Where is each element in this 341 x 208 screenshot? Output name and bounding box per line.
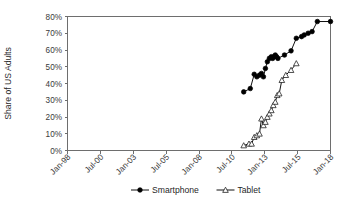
data-point [282,53,287,58]
legend-label: Tablet [238,185,262,195]
plot-frame [68,17,331,151]
x-axis-tick-label: Jul-10 [215,152,237,174]
series-line [244,22,331,92]
x-axis-tick-label: Jan-08 [180,152,204,176]
x-axis-tick-label: Jan-03 [114,152,138,176]
y-axis-tick-label: 10% [46,130,62,139]
y-axis-tick-label: 70% [46,29,62,38]
series-smartphone [241,19,332,94]
y-axis-tick-label: 80% [46,13,62,22]
x-axis-tick-label: Jul-05 [149,152,171,174]
legend-label: Smartphone [152,185,199,195]
x-axis-tick-label: Jul-15 [280,152,302,174]
y-axis-tick-label: 50% [46,63,62,72]
data-point [259,116,265,121]
data-point [263,66,268,71]
data-point [294,36,299,41]
x-axis-tick-label: Jul-00 [83,152,105,174]
series-tablet [241,61,299,148]
legend-item-tablet[interactable]: Tablet [217,185,262,195]
data-point [248,86,253,91]
data-point [294,61,300,66]
y-axis-tick-label: 30% [46,96,62,105]
x-axis-tick-label: Jan-98 [48,152,72,176]
x-axis-tick-label: Jan-18 [311,152,335,176]
data-point [289,49,294,54]
y-axis-tick-label: 20% [46,113,62,122]
legend-item-smartphone[interactable]: Smartphone [131,185,199,195]
series-line [244,63,297,145]
legend: SmartphoneTablet [131,185,261,195]
chart-container: 0%10%20%30%40%50%60%70%80%Jan-98Jul-00Ja… [0,0,341,208]
data-point [276,56,281,61]
y-axis-tick-label: 40% [46,80,62,89]
data-point [241,90,246,95]
data-point [315,19,320,24]
y-axis-tick-label: 0% [50,147,62,156]
x-axis-tick-label: Jan-13 [246,152,270,176]
line-chart: 0%10%20%30%40%50%60%70%80%Jan-98Jul-00Ja… [0,0,341,208]
y-axis-tick-label: 60% [46,46,62,55]
data-point [310,29,315,34]
legend-marker [138,188,143,193]
data-point [328,19,333,24]
y-axis-title: Share of US Adults [3,47,13,120]
data-point [261,75,266,80]
